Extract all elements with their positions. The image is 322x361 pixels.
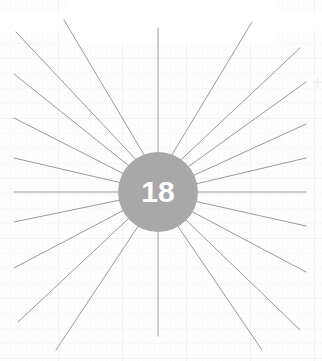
burst-ray — [56, 225, 139, 350]
burst-ray — [171, 22, 252, 156]
plus-marker-icon: ✛ — [312, 76, 322, 89]
burst-ray — [14, 158, 121, 183]
burst-ray — [180, 48, 300, 161]
burst-ray — [177, 225, 262, 350]
burst-ray — [64, 20, 145, 156]
burst-ray — [16, 32, 137, 161]
burst-ray — [192, 124, 306, 176]
burst-ray — [185, 219, 300, 330]
burst-ray — [14, 118, 124, 174]
hub-circle[interactable] — [118, 152, 198, 232]
burst-ray — [195, 158, 306, 184]
burst-ray — [187, 82, 306, 168]
burst-ray — [14, 74, 130, 167]
burst-ray — [14, 200, 121, 222]
burst-ray — [18, 217, 130, 322]
radial-burst-svg — [0, 0, 322, 361]
burst-diagram-canvas: 18 ✛ — [0, 0, 322, 361]
